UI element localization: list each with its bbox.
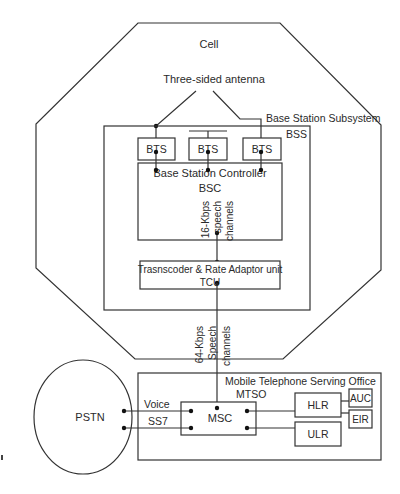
- tcu-msc-link-label: 64-Kbps Speech channels: [194, 326, 232, 366]
- bss-title: Base Station Subsystem: [266, 112, 381, 124]
- svg-text:channels: channels: [221, 326, 232, 366]
- svg-text:16-Kbps: 16-Kbps: [200, 201, 211, 238]
- ss7-label: SS7: [148, 415, 168, 427]
- eir-label: EIR: [352, 414, 369, 425]
- mtso-title: Mobile Telephone Serving Office: [225, 375, 376, 387]
- stray-mark: [1, 455, 3, 460]
- antenna-label: Three-sided antenna: [163, 73, 265, 85]
- ulr-label: ULR: [307, 428, 328, 440]
- bsc-abbr: BSC: [199, 182, 222, 194]
- hlr-label: HLR: [307, 399, 328, 411]
- bsc-title: Base Station Controller: [153, 167, 266, 179]
- msc-label: MSC: [208, 412, 233, 424]
- gsm-architecture-diagram: Cell Three-sided antenna Base Station Su…: [0, 0, 400, 494]
- voice-label: Voice: [144, 398, 170, 410]
- auc-label: AUC: [350, 393, 371, 404]
- tcu-title: Trasnscoder & Rate Adaptor unit: [138, 264, 283, 275]
- pstn-label: PSTN: [75, 411, 104, 423]
- svg-text:Speech: Speech: [207, 326, 218, 360]
- mtso-abbr: MTSO: [236, 388, 266, 400]
- svg-text:speech: speech: [212, 201, 223, 233]
- svg-text:64-Kbps: 64-Kbps: [194, 326, 205, 363]
- cell-label: Cell: [200, 38, 219, 50]
- bts-3: BTS: [243, 138, 281, 160]
- svg-text:channels: channels: [224, 201, 235, 241]
- bss-abbr: BSS: [286, 128, 307, 140]
